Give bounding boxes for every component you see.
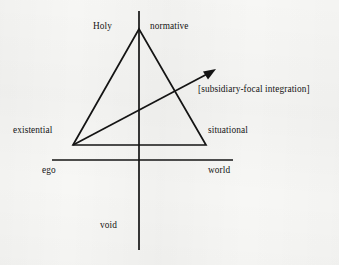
integration-arrow-head bbox=[203, 69, 216, 80]
diagram-page: Holy normative [subsidiary-focal integra… bbox=[0, 0, 339, 265]
label-void: void bbox=[100, 220, 117, 230]
label-normative: normative bbox=[150, 21, 189, 31]
label-world: world bbox=[208, 165, 230, 175]
label-subsidiary-focal-integration: [subsidiary-focal integration] bbox=[198, 84, 310, 94]
label-situational: situational bbox=[208, 125, 248, 135]
label-ego: ego bbox=[42, 165, 56, 175]
label-holy: Holy bbox=[93, 21, 112, 31]
label-existential: existential bbox=[13, 125, 52, 135]
